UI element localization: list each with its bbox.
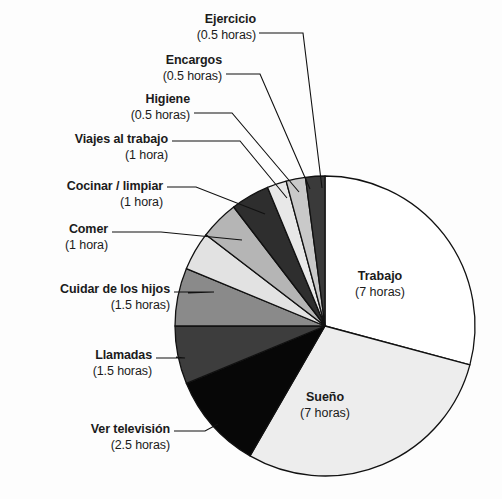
slice-label-trabajo: Trabajo(7 horas) bbox=[355, 268, 405, 301]
callout-category-label: Comer bbox=[65, 221, 108, 237]
callout-category-label: Ver televisión bbox=[91, 421, 170, 437]
callout-llamadas: Llamadas(1.5 horas) bbox=[93, 347, 152, 379]
callout-value-label: (1 hora) bbox=[65, 237, 108, 253]
callout-comer: Comer(1 hora) bbox=[65, 221, 108, 253]
callout-cuidar-de-los-hijos: Cuidar de los hijos(1.5 horas) bbox=[60, 281, 170, 313]
callout-viajes-al-trabajo: Viajes al trabajo(1 hora) bbox=[75, 131, 168, 163]
callout-value-label: (0.5 horas) bbox=[131, 107, 190, 123]
pie-slices-group bbox=[175, 176, 475, 476]
slice-category-label: Sueño bbox=[300, 389, 350, 405]
callout-value-label: (1 hora) bbox=[75, 147, 168, 163]
callout-encargos: Encargos(0.5 horas) bbox=[163, 52, 222, 84]
callout-category-label: Viajes al trabajo bbox=[75, 131, 168, 147]
leader-line-higiene bbox=[194, 113, 299, 192]
callout-higiene: Higiene(0.5 horas) bbox=[131, 91, 190, 123]
slice-label-sueno: Sueño(7 horas) bbox=[300, 389, 350, 422]
callout-category-label: Cuidar de los hijos bbox=[60, 281, 170, 297]
callout-value-label: (0.5 horas) bbox=[163, 68, 222, 84]
callout-category-label: Encargos bbox=[163, 52, 222, 68]
slice-value-label: (7 horas) bbox=[355, 284, 405, 300]
leader-line-encargos bbox=[226, 74, 310, 189]
callout-category-label: Llamadas bbox=[93, 347, 152, 363]
pie-chart-page: Ejercicio(0.5 horas)Encargos(0.5 horas)H… bbox=[0, 0, 502, 499]
callout-ejercicio: Ejercicio(0.5 horas) bbox=[197, 11, 256, 43]
callout-value-label: (1 hora) bbox=[67, 194, 163, 210]
callout-value-label: (1.5 horas) bbox=[93, 363, 152, 379]
slice-value-label: (7 horas) bbox=[300, 405, 350, 421]
callout-value-label: (2.5 horas) bbox=[91, 437, 170, 453]
callout-cocinar-limpiar: Cocinar / limpiar(1 hora) bbox=[67, 178, 163, 210]
callout-value-label: (0.5 horas) bbox=[197, 27, 256, 43]
callout-category-label: Cocinar / limpiar bbox=[67, 178, 163, 194]
callout-category-label: Ejercicio bbox=[197, 11, 256, 27]
callout-value-label: (1.5 horas) bbox=[60, 297, 170, 313]
leader-line-llamadas bbox=[156, 357, 185, 358]
slice-category-label: Trabajo bbox=[355, 268, 405, 284]
callout-category-label: Higiene bbox=[131, 91, 190, 107]
callout-ver-television: Ver televisión(2.5 horas) bbox=[91, 421, 170, 453]
leader-line-ejercicio bbox=[259, 33, 322, 188]
